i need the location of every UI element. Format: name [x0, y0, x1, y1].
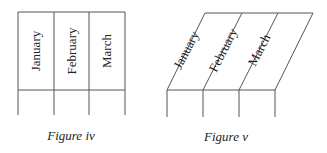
- column-header-january: January: [170, 28, 202, 71]
- figures-canvas: January February March Figure iv January…: [0, 0, 327, 153]
- column-header-february: February: [206, 25, 241, 74]
- figure-iv-caption: Figure iv: [46, 128, 95, 143]
- column-header-january: January: [28, 30, 43, 71]
- figure-iv-table: January February March Figure iv: [18, 12, 125, 143]
- figure-v-caption: Figure v: [203, 129, 248, 144]
- column-header-march: March: [245, 31, 274, 68]
- column-header-february: February: [64, 27, 79, 74]
- slanted-divider: [275, 13, 313, 90]
- column-header-march: March: [99, 34, 114, 68]
- figure-v-table: January February March Figure v: [167, 13, 313, 144]
